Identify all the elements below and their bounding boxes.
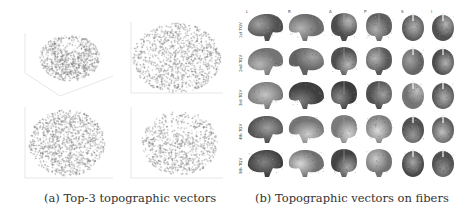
- brain-grid: LRAPSI1st TGV2nd TGV3rd TGV4th TGV5th TG…: [235, 0, 471, 185]
- brain-image-5-p: [363, 148, 395, 178]
- brain-image-1-r: [287, 12, 327, 42]
- caption-a: (a) Top-3 topographic vectors: [44, 191, 216, 205]
- scatter-3d-svg: [15, 18, 115, 98]
- scatter-plot-bottom-left: [15, 103, 115, 183]
- brain-image-1-a: [328, 12, 360, 42]
- scatter-svg-tr: [125, 18, 225, 98]
- scatter-plot-bottom-right: [125, 103, 225, 183]
- brain-image-3-a: [328, 80, 360, 110]
- brain-image-3-l: [245, 80, 285, 110]
- brain-image-1-l: [245, 12, 285, 42]
- brain-image-3-s: [400, 80, 426, 110]
- row-label-4: 4th TGV: [238, 124, 243, 140]
- brain-image-3-r: [287, 80, 327, 110]
- brain-image-4-r: [287, 114, 327, 144]
- row-label-2: 2nd TGV: [238, 55, 243, 72]
- brain-image-1-i: [430, 12, 456, 42]
- brain-image-5-s: [400, 148, 426, 178]
- brain-image-4-l: [245, 114, 285, 144]
- brain-image-4-p: [363, 114, 395, 144]
- brain-image-3-i: [430, 80, 456, 110]
- brain-image-5-a: [328, 148, 360, 178]
- brain-image-2-p: [363, 46, 395, 76]
- scatter-3d-plot: [15, 18, 115, 98]
- brain-image-4-s: [400, 114, 426, 144]
- row-label-1: 1st TGV: [238, 22, 243, 38]
- brain-image-3-p: [363, 80, 395, 110]
- brain-image-2-i: [430, 46, 456, 76]
- row-label-5: 5th TGV: [238, 158, 243, 174]
- brain-image-5-l: [245, 148, 285, 178]
- brain-image-1-p: [363, 12, 395, 42]
- brain-image-2-s: [400, 46, 426, 76]
- brain-image-5-r: [287, 148, 327, 178]
- scatter-svg-br: [125, 103, 225, 183]
- row-label-3: 3rd TGV: [238, 90, 243, 106]
- brain-image-2-l: [245, 46, 285, 76]
- brain-image-5-i: [430, 148, 456, 178]
- brain-image-4-a: [328, 114, 360, 144]
- caption-b: (b) Topographic vectors on fibers: [255, 191, 449, 205]
- scatter-plot-top-right: [125, 18, 225, 98]
- brain-image-1-s: [400, 12, 426, 42]
- panel-b: LRAPSI1st TGV2nd TGV3rd TGV4th TGV5th TG…: [235, 0, 471, 213]
- brain-image-4-i: [430, 114, 456, 144]
- brain-image-2-r: [287, 46, 327, 76]
- brain-image-2-a: [328, 46, 360, 76]
- scatter-svg-bl: [15, 103, 115, 183]
- panel-a: (a) Top-3 topographic vectors: [0, 0, 235, 190]
